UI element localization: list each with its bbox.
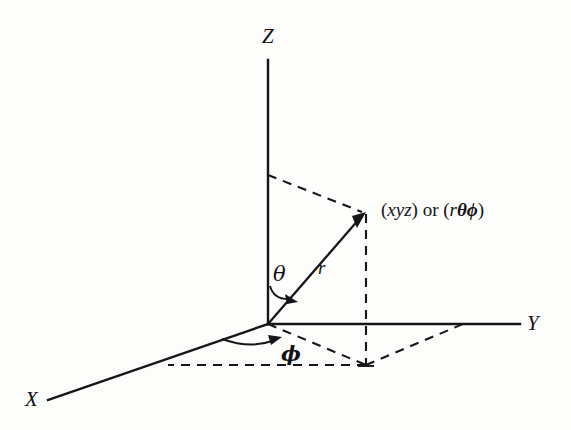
y-axis-label: Y	[527, 313, 539, 334]
x-axis-label: X	[25, 389, 38, 410]
radius-label: r	[318, 258, 325, 277]
z-trace-to-point-dashed	[268, 175, 362, 212]
point-conjunction-text: or	[418, 199, 443, 220]
phi-arc	[222, 339, 272, 345]
spherical-coordinates-figure: Z Y X r θ ϕ (xyz) or (rθϕ)	[0, 0, 571, 430]
z-axis-label: Z	[262, 26, 274, 47]
phi-angle-label: ϕ	[281, 343, 301, 364]
x-axis-line	[48, 324, 268, 400]
point-spherical-close-paren: )	[478, 199, 484, 220]
point-spherical-r-text: r	[450, 199, 457, 220]
point-spherical-phi-text: ϕ	[467, 199, 478, 220]
point-spherical-theta-text: θ	[457, 199, 467, 220]
phi-arc-arrowhead	[268, 335, 282, 345]
theta-angle-label: θ	[273, 264, 286, 285]
foot-to-right-corner-dashed	[366, 324, 463, 365]
point-cartesian-text: xyz	[387, 199, 411, 220]
point-coordinates-label: (xyz) or (rθϕ)	[381, 200, 484, 219]
